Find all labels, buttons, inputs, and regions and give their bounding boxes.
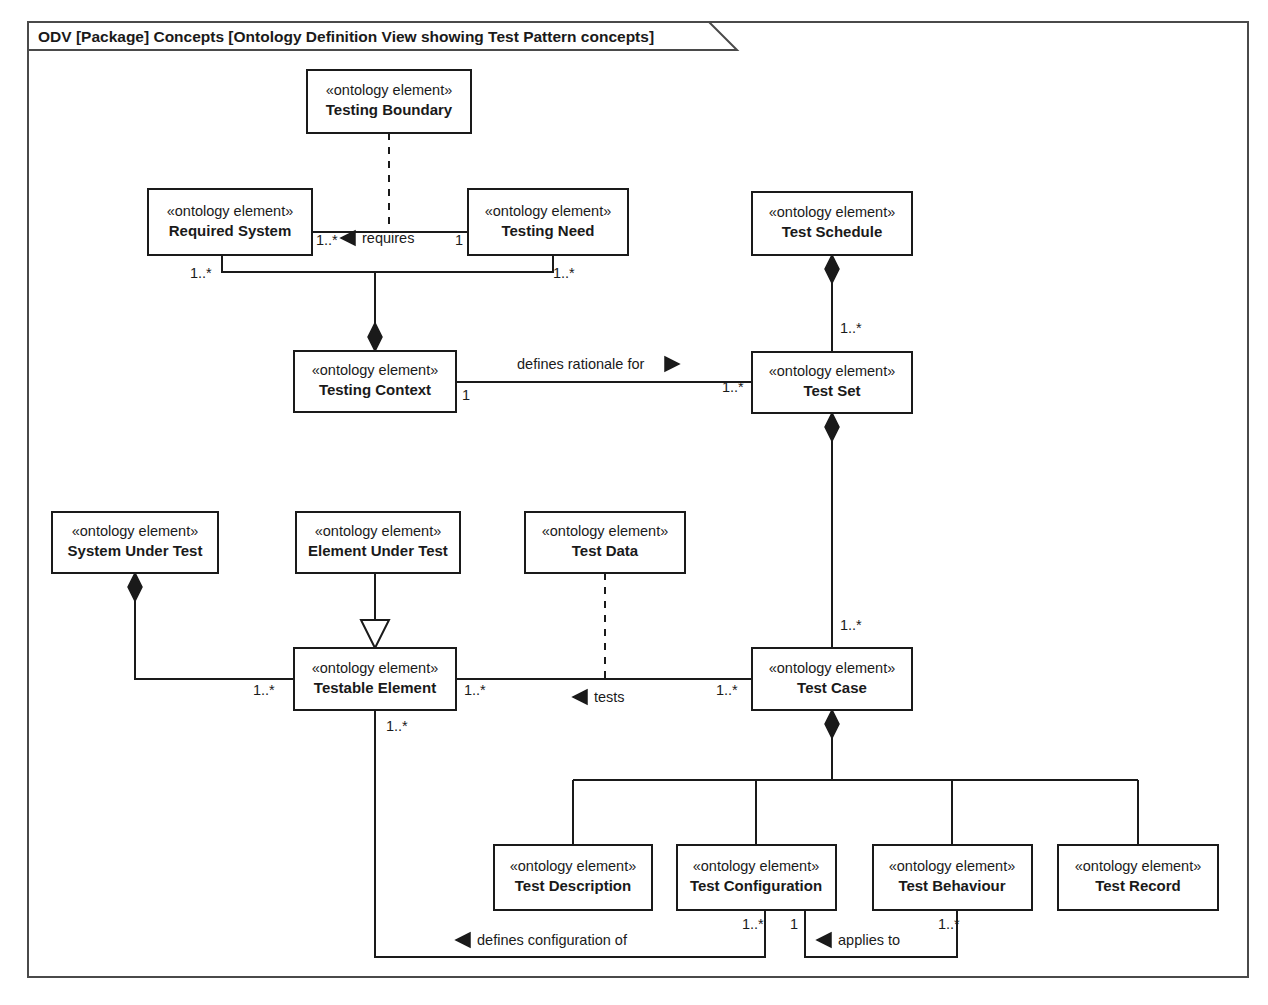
node-stereotype-test-behaviour: «ontology element» xyxy=(889,858,1016,874)
node-label-testing-boundary: Testing Boundary xyxy=(326,101,453,118)
node-label-testing-need: Testing Need xyxy=(501,222,594,239)
node-stereotype-system-under-test: «ontology element» xyxy=(72,523,199,539)
multiplicity-test-set-rationale: 1..* xyxy=(722,379,744,395)
node-label-test-case: Test Case xyxy=(797,679,867,696)
composition-diamond-test-set xyxy=(825,413,839,441)
multiplicity-testable-element-tests: 1..* xyxy=(464,682,486,698)
node-stereotype-element-under-test: «ontology element» xyxy=(315,523,442,539)
node-test-behaviour[interactable]: «ontology element» Test Behaviour xyxy=(873,845,1032,910)
node-label-test-record: Test Record xyxy=(1095,877,1181,894)
node-stereotype-test-schedule: «ontology element» xyxy=(769,204,896,220)
composition-diamond-test-schedule xyxy=(825,255,839,283)
node-test-configuration[interactable]: «ontology element» Test Configuration xyxy=(677,845,836,910)
multiplicity-testing-need-requires: 1 xyxy=(455,232,463,248)
node-test-record[interactable]: «ontology element» Test Record xyxy=(1058,845,1218,910)
node-testing-boundary[interactable]: «ontology element» Testing Boundary xyxy=(307,70,471,133)
node-test-data[interactable]: «ontology element» Test Data xyxy=(525,512,685,573)
association-label-defines-configuration-of: defines configuration of xyxy=(477,932,628,948)
node-label-testable-element: Testable Element xyxy=(314,679,436,696)
association-label-tests: tests xyxy=(594,689,625,705)
node-stereotype-testing-boundary: «ontology element» xyxy=(326,82,453,98)
node-testable-element[interactable]: «ontology element» Testable Element xyxy=(294,648,456,710)
node-test-schedule[interactable]: «ontology element» Test Schedule xyxy=(752,192,912,255)
direction-triangle-requires-icon xyxy=(341,231,355,245)
direction-triangle-applies-to-icon xyxy=(817,933,831,947)
generalization-triangle-testable-element xyxy=(361,620,389,648)
node-stereotype-test-configuration: «ontology element» xyxy=(693,858,820,874)
node-label-test-description: Test Description xyxy=(515,877,631,894)
direction-triangle-defines-rationale-for-icon xyxy=(665,357,679,371)
multiplicity-required-system-context: 1..* xyxy=(190,265,212,281)
node-system-under-test[interactable]: «ontology element» System Under Test xyxy=(52,512,218,573)
node-testing-need[interactable]: «ontology element» Testing Need xyxy=(468,189,628,255)
node-label-testing-context: Testing Context xyxy=(319,381,431,398)
multiplicity-test-schedule-set: 1..* xyxy=(840,320,862,336)
association-label-requires: requires xyxy=(362,230,414,246)
node-required-system[interactable]: «ontology element» Required System xyxy=(148,189,312,255)
uml-class-diagram: ODV [Package] Concepts [Ontology Definit… xyxy=(0,0,1268,1005)
node-element-under-test[interactable]: «ontology element» Element Under Test xyxy=(296,512,460,573)
node-stereotype-required-system: «ontology element» xyxy=(167,203,294,219)
node-stereotype-testing-need: «ontology element» xyxy=(485,203,612,219)
direction-triangle-defines-configuration-of-icon xyxy=(456,933,470,947)
node-label-test-configuration: Test Configuration xyxy=(690,877,822,894)
multiplicity-required-system-requires: 1..* xyxy=(316,232,338,248)
multiplicity-testing-need-context: 1..* xyxy=(553,265,575,281)
node-test-set[interactable]: «ontology element» Test Set xyxy=(752,352,912,413)
multiplicity-testable-element-config: 1..* xyxy=(386,718,408,734)
node-label-test-schedule: Test Schedule xyxy=(782,223,883,240)
node-label-element-under-test: Element Under Test xyxy=(308,542,448,559)
multiplicity-test-behaviour-applies: 1..* xyxy=(938,916,960,932)
multiplicity-test-case-tests: 1..* xyxy=(716,682,738,698)
node-test-description[interactable]: «ontology element» Test Description xyxy=(494,845,652,910)
node-label-test-behaviour: Test Behaviour xyxy=(898,877,1005,894)
node-stereotype-testing-context: «ontology element» xyxy=(312,362,439,378)
composition-diamond-test-case xyxy=(825,710,839,738)
node-stereotype-test-description: «ontology element» xyxy=(510,858,637,874)
multiplicity-test-configuration-defines: 1..* xyxy=(742,916,764,932)
node-label-test-set: Test Set xyxy=(803,382,860,399)
diagram-title: ODV [Package] Concepts [Ontology Definit… xyxy=(38,28,654,45)
multiplicity-test-configuration-applies: 1 xyxy=(790,916,798,932)
node-label-test-data: Test Data xyxy=(572,542,639,559)
node-testing-context[interactable]: «ontology element» Testing Context xyxy=(294,351,456,412)
node-stereotype-testable-element: «ontology element» xyxy=(312,660,439,676)
edge-defines-configuration-of xyxy=(375,710,765,957)
uml-diagram-canvas: ODV [Package] Concepts [Ontology Definit… xyxy=(0,0,1268,1005)
association-label-applies-to: applies to xyxy=(838,932,900,948)
multiplicity-testable-element-sut: 1..* xyxy=(253,682,275,698)
node-stereotype-test-case: «ontology element» xyxy=(769,660,896,676)
edge-context-bracket xyxy=(222,255,553,272)
direction-triangle-tests-icon xyxy=(573,690,587,704)
diagram-frame xyxy=(28,22,1248,977)
multiplicity-testing-context-rationale: 1 xyxy=(462,387,470,403)
node-test-case[interactable]: «ontology element» Test Case xyxy=(752,648,912,710)
node-stereotype-test-record: «ontology element» xyxy=(1075,858,1202,874)
node-stereotype-test-data: «ontology element» xyxy=(542,523,669,539)
node-label-required-system: Required System xyxy=(169,222,292,239)
node-stereotype-test-set: «ontology element» xyxy=(769,363,896,379)
multiplicity-test-set-case: 1..* xyxy=(840,617,862,633)
edge-sut-testable xyxy=(135,573,294,679)
composition-diamond-testing-context xyxy=(368,323,382,351)
composition-diamond-system-under-test xyxy=(128,573,142,601)
association-label-defines-rationale-for: defines rationale for xyxy=(517,356,645,372)
node-label-system-under-test: System Under Test xyxy=(68,542,203,559)
